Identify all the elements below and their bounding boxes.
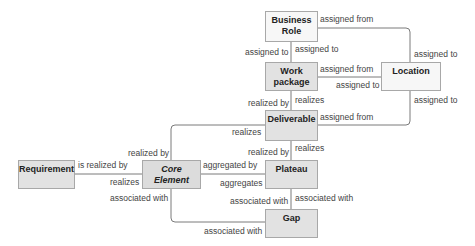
edge-label: assigned from [320,112,373,122]
node-label: Deliverable [266,114,317,125]
edge-label: assigned to [414,49,457,59]
edge-label: aggregated by [203,160,257,170]
connector-lines [0,0,475,246]
edge-label: realized by [248,98,289,108]
node-deliverable[interactable]: Deliverable [265,110,318,141]
edge-label: realized by [128,148,169,158]
edge-label: assigned from [320,14,373,24]
node-label: Location [382,66,440,77]
node-label: Gap [266,213,317,224]
edge-label: realizes [232,127,261,137]
node-gap[interactable]: Gap [265,209,318,238]
edge-label: realizes [110,177,139,187]
edge-label: realized by [248,147,289,157]
edge-label: assigned to [295,44,338,54]
node-label: Plateau [266,164,317,175]
archimate-diagram: Business Role Work package Location Deli… [0,0,475,246]
node-label: Requirement [19,164,74,175]
edge-label: realizes [295,95,324,105]
node-label: Work [266,66,317,77]
edge-label: aggregates [220,178,263,188]
node-label: Role [266,26,317,37]
edge-label: realizes [295,143,324,153]
node-business-role[interactable]: Business Role [265,11,318,42]
edge-label: assigned from [320,64,373,74]
node-plateau[interactable]: Plateau [265,160,318,189]
node-label: Element [143,175,200,186]
edge-label: assigned to [336,80,379,90]
node-label: Core [143,164,200,175]
edge-label: associated with [295,193,353,203]
node-label: Business [266,15,317,26]
edge-label: associated with [230,196,288,206]
edge-label: assigned to [245,47,288,57]
edge-label: assigned to [414,95,457,105]
node-label: package [266,77,317,88]
node-core-element[interactable]: Core Element [142,160,201,189]
edge-label: associated with [204,226,262,236]
edge-label: associated with [110,193,168,203]
edge-label: is realized by [78,160,128,170]
node-requirement[interactable]: Requirement [18,160,75,189]
node-location[interactable]: Location [381,62,441,91]
node-work-package[interactable]: Work package [265,62,318,91]
